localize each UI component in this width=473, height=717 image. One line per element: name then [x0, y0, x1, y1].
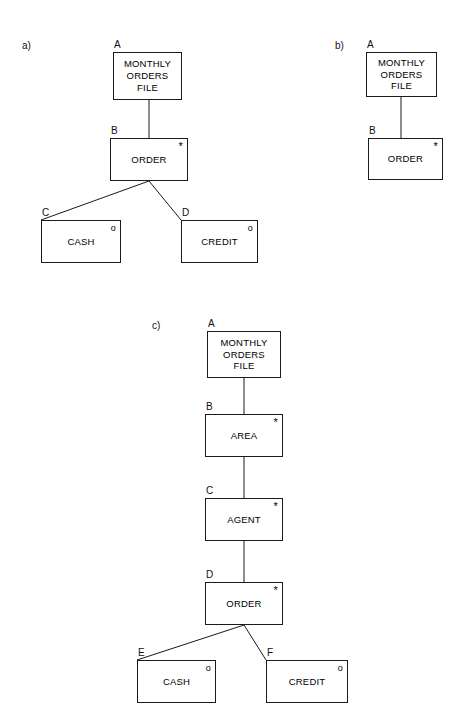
- node-label-b_B: ORDER: [385, 153, 426, 165]
- node-id-a_D: D: [182, 207, 189, 218]
- node-id-c_E: E: [138, 647, 145, 658]
- repetition-marker-icon-c_D: *: [274, 585, 278, 596]
- connector-c-c_D-to-c_E: [137, 625, 244, 660]
- selection-marker-icon-a_C: o: [111, 224, 116, 233]
- node-label-c_A: MONTHLY ORDERS FILE: [217, 337, 270, 373]
- node-label-a_D: CREDIT: [198, 236, 241, 248]
- node-label-a_C: CASH: [64, 236, 97, 248]
- node-id-a_B: B: [111, 125, 118, 136]
- node-label-c_F: CREDIT: [286, 676, 329, 688]
- node-id-c_C: C: [206, 485, 213, 496]
- node-box-c_A[interactable]: MONTHLY ORDERS FILE: [207, 331, 281, 378]
- repetition-marker-icon-a_B: *: [179, 141, 183, 152]
- node-box-c_D[interactable]: ORDER*: [205, 582, 283, 625]
- node-label-c_E: CASH: [160, 676, 193, 688]
- connector-a-a_B-to-a_D: [149, 181, 181, 220]
- node-label-a_B: ORDER: [128, 154, 169, 166]
- selection-marker-icon-c_E: o: [206, 664, 211, 673]
- figure-caption-b: b): [335, 40, 344, 51]
- node-label-c_D: ORDER: [223, 598, 264, 610]
- figure-caption-a: a): [22, 40, 31, 51]
- node-id-a_C: C: [42, 207, 49, 218]
- node-label-b_A: MONTHLY ORDERS FILE: [375, 57, 428, 93]
- node-id-b_A: A: [367, 39, 374, 50]
- figure-caption-c: c): [152, 320, 160, 331]
- node-id-b_B: B: [369, 125, 376, 136]
- node-box-c_E[interactable]: CASHo: [137, 660, 216, 703]
- node-label-c_B: AREA: [228, 430, 261, 442]
- node-label-c_C: AGENT: [224, 514, 264, 526]
- node-box-a_A[interactable]: MONTHLY ORDERS FILE: [113, 52, 182, 100]
- node-box-a_C[interactable]: CASHo: [41, 220, 121, 263]
- node-box-c_F[interactable]: CREDITo: [266, 660, 348, 703]
- node-box-b_A[interactable]: MONTHLY ORDERS FILE: [366, 52, 437, 97]
- repetition-marker-icon-c_B: *: [274, 417, 278, 428]
- node-id-c_B: B: [206, 401, 213, 412]
- node-box-a_B[interactable]: ORDER*: [110, 138, 188, 181]
- node-id-c_F: F: [267, 647, 273, 658]
- node-box-c_B[interactable]: AREA*: [205, 414, 283, 457]
- node-id-a_A: A: [114, 39, 121, 50]
- node-box-c_C[interactable]: AGENT*: [205, 498, 283, 541]
- node-id-c_D: D: [206, 569, 213, 580]
- repetition-marker-icon-b_B: *: [434, 141, 438, 152]
- node-box-a_D[interactable]: CREDITo: [181, 220, 258, 263]
- node-id-c_A: A: [208, 318, 215, 329]
- repetition-marker-icon-c_C: *: [274, 501, 278, 512]
- node-box-b_B[interactable]: ORDER*: [368, 138, 443, 180]
- connector-a-a_B-to-a_C: [41, 181, 149, 220]
- node-label-a_A: MONTHLY ORDERS FILE: [121, 58, 174, 94]
- selection-marker-icon-c_F: o: [338, 664, 343, 673]
- selection-marker-icon-a_D: o: [248, 224, 253, 233]
- connector-c-c_D-to-c_F: [244, 625, 266, 660]
